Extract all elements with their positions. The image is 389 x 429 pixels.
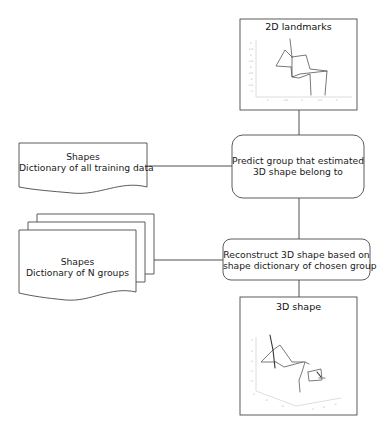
svg-text:0.5: 0.5: [249, 60, 253, 63]
shape-3d-title: 3D shape: [240, 301, 357, 312]
flowchart-canvas: 21.51 0.50-0.5 -1-1.5-2 -1-0.50 0.51: [0, 0, 389, 429]
predict-group-label: Predict group that estimated 3D shape be…: [232, 155, 364, 177]
svg-text:-1: -1: [266, 99, 269, 102]
svg-text:-2: -2: [265, 399, 268, 402]
svg-text:-4: -4: [281, 405, 284, 408]
svg-text:-0.5: -0.5: [248, 72, 253, 75]
landmarks-2d-box: 21.51 0.50-0.5 -1-1.5-2 -1-0.50 0.51: [240, 19, 357, 110]
svg-text:-2: -2: [250, 90, 253, 93]
landmarks-2d-title: 2D landmarks: [240, 21, 357, 32]
dict-all-label: Shapes Dictionary of all training data: [19, 151, 147, 173]
dict-groups-label: Shapes Dictionary of N groups: [19, 256, 136, 278]
reconstruct-line-2: shape dictionary of chosen group: [223, 260, 370, 271]
svg-text:-2: -2: [250, 380, 253, 383]
reconstruct-line-1: Reconstruct 3D shape based on: [223, 249, 370, 260]
svg-text:-1.5: -1.5: [248, 84, 253, 87]
svg-text:-1: -1: [334, 403, 337, 406]
svg-text:-1: -1: [250, 78, 253, 81]
svg-text:-0.5: -0.5: [283, 99, 288, 102]
dict-groups-line-2: Dictionary of N groups: [19, 267, 136, 278]
dict-all-line-2: Dictionary of all training data: [19, 162, 147, 173]
shape-3d-box: 210 -1-2 0-2-4 10-1: [240, 297, 357, 415]
dict-groups-line-1: Shapes: [19, 256, 136, 267]
svg-text:1.5: 1.5: [249, 48, 253, 51]
svg-text:0.5: 0.5: [318, 99, 322, 102]
svg-text:-1: -1: [250, 370, 253, 373]
predict-group-line-2: 3D shape belong to: [232, 166, 364, 177]
reconstruct-label: Reconstruct 3D shape based on shape dict…: [223, 249, 370, 271]
predict-group-line-1: Predict group that estimated: [232, 155, 364, 166]
dict-all-line-1: Shapes: [19, 151, 147, 162]
